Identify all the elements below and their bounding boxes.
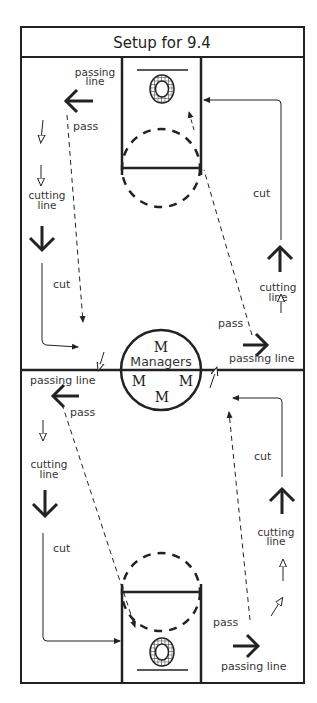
passing-line-label: passing line (221, 660, 287, 673)
manager-marker: M (154, 339, 168, 355)
passing-line-label: line (86, 75, 105, 87)
cut-path-arrow (233, 398, 282, 477)
pass-path-dashed-arrow (189, 112, 194, 130)
solid-arrow-icon (30, 226, 54, 250)
cutting-line-label: line (38, 199, 57, 211)
bottom-right-zone: cut cutting line pass passing line (213, 398, 294, 673)
solid-arrow-icon (53, 385, 79, 407)
hollow-arrow-icon (41, 120, 43, 140)
managers-label: Managers (130, 354, 191, 369)
cut-label: cut (53, 278, 71, 291)
pass-label: pass (218, 317, 243, 330)
solid-arrow-icon (268, 247, 292, 272)
pass-path-dashed-arrow (204, 170, 252, 335)
cut-label: cut (254, 450, 272, 463)
basket-hoop-icon (150, 638, 174, 666)
cut-path-arrow (42, 263, 78, 347)
court-diagram: Setup for 9.4 M Managers M M (0, 0, 317, 703)
manager-marker: M (155, 389, 169, 405)
bottom-left-zone: passing line pass cutting line cut (30, 374, 135, 641)
hollow-arrow-icon (271, 600, 281, 616)
pass-label: pass (73, 120, 98, 133)
diagram-title: Setup for 9.4 (113, 34, 211, 52)
solid-arrow-icon (233, 635, 258, 657)
cut-path-arrow (204, 100, 281, 240)
hollow-arrow-icon (210, 370, 216, 388)
top-key (122, 57, 201, 207)
cut-label: cut (253, 187, 271, 200)
hollow-arrow-icon (99, 352, 104, 368)
top-right-zone: cut cutting line pass passing line (189, 100, 296, 388)
pass-label: pass (213, 616, 238, 629)
passing-line-label: passing line (229, 352, 295, 365)
pass-label: pass (70, 406, 95, 419)
top-left-zone: passing line pass cutting line cut (29, 66, 116, 368)
bottom-key (122, 553, 201, 683)
basket-hoop-icon (150, 75, 174, 103)
manager-marker: M (179, 373, 193, 389)
manager-marker: M (132, 373, 146, 389)
pass-path-dashed-arrow (229, 412, 250, 620)
pass-path-dashed-arrow (62, 404, 135, 627)
solid-arrow-icon (33, 490, 57, 516)
solid-arrow-icon (270, 489, 294, 514)
solid-arrow-icon (66, 90, 93, 112)
cutting-line-label: line (267, 535, 286, 547)
cut-label: cut (53, 542, 71, 555)
cutting-line-label: line (40, 468, 59, 480)
cutting-line-label: line (269, 291, 288, 303)
